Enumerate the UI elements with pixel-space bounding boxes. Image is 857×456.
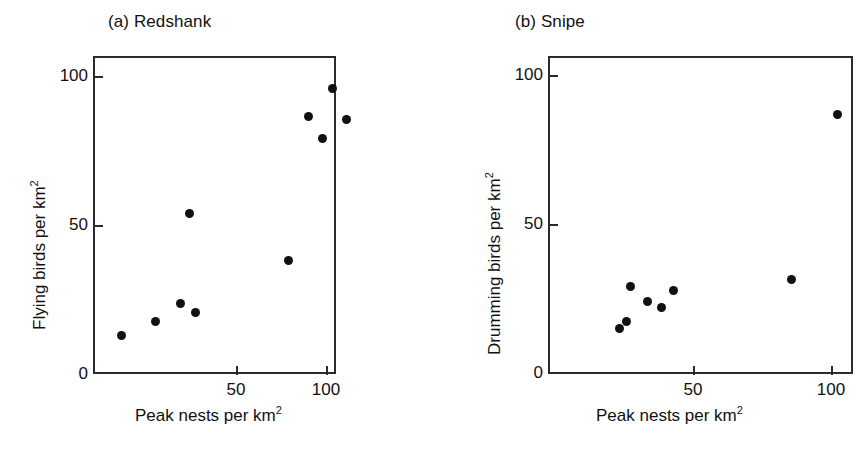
- panel-a-xtick-100: [326, 366, 328, 375]
- panel-b-xtick-label-50: 50: [663, 380, 723, 400]
- panel-a-ytick-label-0: 0: [40, 364, 88, 384]
- data-point: [615, 324, 624, 333]
- panel-b-ytick-label-0: 0: [495, 363, 543, 383]
- data-point: [669, 286, 678, 295]
- panel-b-ytick-50: [549, 224, 558, 226]
- panel-snipe: (b) Snipe 100 50 0 50 100 Peak nests per…: [430, 0, 857, 456]
- data-point: [833, 110, 842, 119]
- data-point: [117, 331, 126, 340]
- panel-a-yaxis-title-text: Flying birds per km: [30, 186, 49, 330]
- panel-b-ytick-100: [549, 75, 558, 77]
- data-point: [284, 256, 293, 265]
- panel-a-xtick-50: [236, 366, 238, 375]
- data-point: [176, 299, 185, 308]
- data-point: [318, 134, 327, 143]
- panel-b-yaxis-title-text: Drumming birds per km: [485, 178, 504, 355]
- panel-a-ytick-50: [94, 225, 103, 227]
- panel-b-ytick-label-100: 100: [495, 65, 543, 85]
- data-point: [626, 282, 635, 291]
- panel-a-title: (a) Redshank: [108, 12, 211, 32]
- panel-b-yaxis-title-sup: 2: [483, 172, 495, 178]
- data-point: [191, 308, 200, 317]
- panel-b-yaxis-title: Drumming birds per km2: [485, 172, 505, 355]
- panel-b-xtick-50: [693, 366, 695, 375]
- panel-b-right-spine: [851, 56, 853, 374]
- data-point: [643, 297, 652, 306]
- panel-b-xtick-label-100: 100: [801, 380, 857, 400]
- data-point: [622, 317, 631, 326]
- panel-a-ytick-label-100: 100: [40, 66, 88, 86]
- panel-a-right-spine: [334, 56, 336, 374]
- panel-a-xaxis-title-sup: 2: [276, 404, 282, 416]
- panel-a-xaxis-title: Peak nests per km2: [135, 406, 282, 426]
- panel-b-xtick-100: [831, 366, 833, 375]
- panel-b-xaxis-title-text: Peak nests per km: [596, 406, 737, 425]
- panel-a-xtick-label-50: 50: [206, 380, 266, 400]
- data-point: [787, 275, 796, 284]
- panel-b-axes: [548, 56, 853, 374]
- panel-a-yaxis-title: Flying birds per km2: [30, 180, 50, 330]
- data-point: [328, 84, 337, 93]
- panel-a-axes: [93, 56, 336, 374]
- panel-a-ytick-100: [94, 76, 103, 78]
- panel-a-top-spine: [93, 56, 336, 58]
- panel-b-top-spine: [548, 56, 853, 58]
- data-point: [304, 112, 313, 121]
- panel-b-xaxis-title: Peak nests per km2: [596, 406, 743, 426]
- panel-b-title: (b) Snipe: [515, 12, 585, 32]
- data-point: [342, 115, 351, 124]
- figure-root: (a) Redshank 100 50 0 50 100 Peak nests …: [0, 0, 857, 456]
- data-point: [185, 209, 194, 218]
- panel-a-xaxis-title-text: Peak nests per km: [135, 406, 276, 425]
- data-point: [151, 317, 160, 326]
- panel-redshank: (a) Redshank 100 50 0 50 100 Peak nests …: [0, 0, 430, 456]
- panel-a-yaxis-title-sup: 2: [28, 180, 40, 186]
- data-point: [657, 303, 666, 312]
- panel-a-xtick-label-100: 100: [296, 380, 356, 400]
- panel-b-xaxis-title-sup: 2: [737, 404, 743, 416]
